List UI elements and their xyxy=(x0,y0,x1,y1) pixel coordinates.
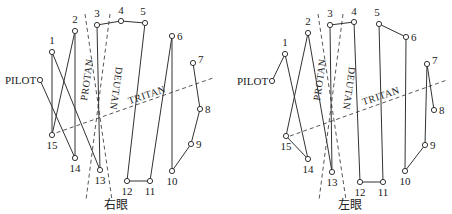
cap-point-5 xyxy=(142,20,147,25)
cap-point-4 xyxy=(351,19,356,24)
cap-point-8 xyxy=(197,106,202,111)
cap-point-10 xyxy=(169,168,174,173)
cap-point-2 xyxy=(72,28,77,33)
panel-left-eye: PROTANDEUTANTRITAN123456789101112131415P… xyxy=(237,5,447,212)
cap-label-8: 8 xyxy=(439,104,445,116)
cap-point-pilot xyxy=(37,77,42,82)
deutan-axis-label: DEUTAN xyxy=(108,66,125,110)
panel-right-eye: PROTANDEUTANTRITAN123456789101112131415P… xyxy=(5,4,213,212)
cap-label-3: 3 xyxy=(327,7,333,19)
color-vision-test-diagram: PROTANDEUTANTRITAN123456789101112131415P… xyxy=(0,0,452,214)
cap-point-14 xyxy=(305,156,310,161)
cap-label-12: 12 xyxy=(122,185,133,197)
cap-label-1: 1 xyxy=(282,36,288,48)
tritan-axis-label: TRITAN xyxy=(127,83,167,106)
cap-point-12 xyxy=(357,179,362,184)
cap-label-2: 2 xyxy=(305,15,311,27)
cap-label-14: 14 xyxy=(303,163,315,175)
cap-point-5 xyxy=(376,21,381,26)
cap-label-5: 5 xyxy=(140,5,146,17)
cap-label-10: 10 xyxy=(400,175,412,187)
cap-label-13: 13 xyxy=(327,176,339,188)
cap-label-7: 7 xyxy=(432,54,438,66)
cap-point-9 xyxy=(422,142,427,147)
cap-label-3: 3 xyxy=(94,7,100,19)
cap-point-1 xyxy=(282,51,287,56)
cap-point-3 xyxy=(327,22,332,27)
cap-label-9: 9 xyxy=(196,138,202,150)
cap-point-8 xyxy=(431,107,436,112)
cap-label-1: 1 xyxy=(49,34,55,46)
cap-label-2: 2 xyxy=(72,13,78,25)
panel-caption: 左眼 xyxy=(338,197,362,212)
cap-point-pilot xyxy=(269,78,274,83)
cap-label-9: 9 xyxy=(430,139,436,151)
cap-point-13 xyxy=(97,167,102,172)
cap-label-10: 10 xyxy=(167,175,179,187)
cap-label-11: 11 xyxy=(145,185,156,197)
cap-label-7: 7 xyxy=(198,53,204,65)
cap-point-1 xyxy=(49,49,54,54)
cap-label-pilot: PILOT xyxy=(237,75,268,87)
cap-label-pilot: PILOT xyxy=(5,74,36,86)
cap-label-11: 11 xyxy=(378,186,389,198)
cap-label-15: 15 xyxy=(47,139,59,151)
cap-point-6 xyxy=(403,34,408,39)
cap-point-7 xyxy=(190,60,195,65)
cap-point-15 xyxy=(283,133,288,138)
cap-label-4: 4 xyxy=(118,4,124,16)
cap-point-7 xyxy=(424,61,429,66)
cap-point-14 xyxy=(72,155,77,160)
protan-axis-label: PROTAN xyxy=(78,58,95,101)
cap-point-12 xyxy=(124,178,129,183)
cap-label-12: 12 xyxy=(355,186,366,198)
deutan-axis-label: DEUTAN xyxy=(341,66,358,110)
cap-point-10 xyxy=(402,168,407,173)
cap-point-13 xyxy=(329,169,334,174)
cap-point-9 xyxy=(188,141,193,146)
cap-label-4: 4 xyxy=(351,5,357,17)
cap-label-15: 15 xyxy=(281,140,293,152)
cap-label-6: 6 xyxy=(177,30,183,42)
cap-point-6 xyxy=(169,33,174,38)
cap-point-15 xyxy=(49,132,54,137)
cap-label-13: 13 xyxy=(95,174,107,186)
cap-label-6: 6 xyxy=(411,31,417,43)
panel-caption: 右眼 xyxy=(104,197,128,212)
cap-point-3 xyxy=(94,22,99,27)
cap-point-4 xyxy=(118,18,123,23)
cap-label-14: 14 xyxy=(70,162,82,174)
cap-point-11 xyxy=(380,179,385,184)
cap-label-8: 8 xyxy=(205,103,211,115)
cap-label-5: 5 xyxy=(374,6,380,18)
cap-point-2 xyxy=(305,30,310,35)
cap-point-11 xyxy=(147,178,152,183)
